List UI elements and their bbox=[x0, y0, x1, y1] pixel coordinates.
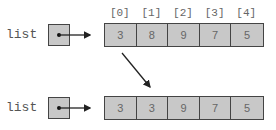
top-pointer-arrow-icon bbox=[57, 33, 90, 37]
copy-transition-arrow-icon bbox=[122, 53, 150, 87]
arrows-layer bbox=[0, 0, 276, 130]
bottom-pointer-arrow-icon bbox=[57, 106, 90, 110]
